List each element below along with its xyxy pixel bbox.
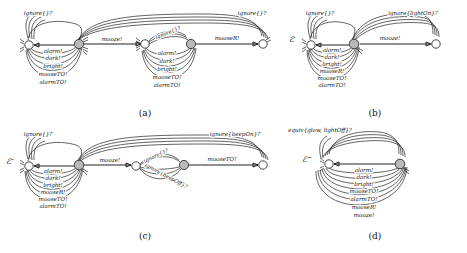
edge-label-loop-4: mooseTO!: [318, 75, 347, 81]
edge-label-equiv: equiv{glow, lightOff}?: [288, 127, 353, 134]
edge-label-loop-left-2: bright!: [43, 63, 63, 70]
panel-b: ℰ′ ignore{}? ignore{lightOn}? mooze! ala…: [283, 0, 467, 128]
state-node: [259, 161, 267, 169]
panel-a-graph: ignore{}? ignore{}? mooze! mooseR! ignor…: [0, 0, 290, 110]
edge-label-loop-5: alarmTO!: [39, 203, 66, 209]
edge-label-ignore-diagonal: ignore{}?: [154, 25, 181, 41]
edge-label-loop-2: bright!: [354, 181, 374, 188]
edge-label-loop-left-1: dark!: [45, 55, 60, 61]
state-node: [74, 39, 83, 48]
state-node: [25, 162, 33, 170]
state-node: [432, 40, 440, 48]
state-node: [179, 160, 188, 169]
edge-label-loop-0: alarm!: [355, 167, 374, 173]
panel-caption-c: (c): [0, 231, 290, 241]
state-node: [259, 40, 267, 48]
edge-label-ignore-left: ignore{}?: [24, 131, 53, 138]
edge-label-mooseTO: mooseTO!: [208, 156, 237, 162]
state-node: [141, 40, 149, 48]
edge-label-ignore-left: ignore{}?: [24, 10, 53, 17]
state-set-label-d: ℰ‴: [302, 155, 312, 164]
edge-label-ignore-lighton: ignore{lightOn}?: [388, 10, 439, 17]
edge-label-loop-3: mooseR!: [320, 68, 345, 74]
panel-caption-b: (b): [283, 108, 467, 118]
edge-label-ignore-left: ignore{}?: [306, 10, 335, 17]
state-node: [325, 160, 333, 168]
state-node: [307, 41, 315, 49]
state-node: [25, 41, 33, 49]
edge-label-loop-right-2: bright!: [157, 66, 177, 73]
edge-label-mooze: mooze!: [380, 35, 401, 41]
edge-label-loop-0: alarm!: [44, 168, 63, 174]
edge-label-loop-4: mooseTO!: [39, 196, 68, 202]
edge-label-mooze: mooze!: [102, 36, 123, 42]
edge-label-loop-6: mooze!: [354, 212, 375, 218]
edge-label-loop-0: alarm!: [323, 47, 342, 53]
edge-label-loop-3: mooseR!: [41, 189, 66, 195]
edge-label-loop-4: alarmTO!: [350, 196, 377, 202]
panel-caption-a: (a): [0, 108, 290, 118]
panel-c: ℰ″ ignore{}? ignore{beepOn}? mooze! moos…: [0, 124, 290, 253]
edge-label-loop-left-4: alarmTO!: [39, 79, 66, 85]
state-node: [395, 159, 405, 169]
edge-label-loop-2: bright!: [322, 61, 342, 68]
panel-b-graph: ℰ′ ignore{}? ignore{lightOn}? mooze! ala…: [283, 0, 467, 110]
edge-label-mooseR: mooseR!: [215, 35, 240, 41]
edge-label-loop-right-1: dark!: [159, 58, 174, 64]
figure-automata-diagrams: ignore{}? ignore{}? mooze! mooseR! ignor…: [0, 0, 467, 253]
edge-label-loop-1: dark!: [324, 54, 339, 60]
panel-a: ignore{}? ignore{}? mooze! mooseR! ignor…: [0, 0, 290, 128]
panel-d: ℰ‴ equiv{glow, lightOff}? alarm! dark! b…: [283, 124, 467, 253]
edge-label-loop-right-4: alarmTO!: [153, 82, 180, 88]
edge-label-loop-right-0: alarm!: [158, 50, 177, 56]
edge-label-loop-left-0: alarm!: [44, 48, 63, 54]
panel-d-graph: ℰ‴ equiv{glow, lightOff}? alarm! dark! b…: [283, 124, 467, 234]
edge-label-loop-2: bright!: [43, 182, 63, 189]
edge-label-ignore-beepon: ignore{beepOn}?: [210, 131, 261, 138]
edge-label-loop-3: mooseTO!: [350, 188, 379, 194]
state-set-label-b: ℰ′: [289, 35, 296, 44]
edge-label-loop-1: dark!: [45, 175, 60, 181]
panel-caption-d: (d): [283, 231, 467, 241]
edge-label-loop-5: alarmTO!: [318, 82, 345, 88]
panel-c-graph: ℰ″ ignore{}? ignore{beepOn}? mooze! moos…: [0, 124, 290, 234]
edge-label-ignore-right: ignore{}?: [238, 10, 267, 17]
state-node: [74, 160, 84, 170]
edge-label-loop-1: dark!: [356, 174, 371, 180]
state-node: [132, 162, 140, 170]
state-set-label-c: ℰ″: [6, 157, 14, 166]
state-node: [186, 39, 195, 48]
edge-label-loop-right-3: mooseTO!: [153, 74, 182, 80]
edge-label-loop-left-3: mooseTO!: [39, 71, 68, 77]
edge-label-loop-5: mooseR!: [352, 204, 377, 210]
state-node: [349, 39, 359, 49]
edge-label-mooze: mooze!: [100, 157, 121, 163]
